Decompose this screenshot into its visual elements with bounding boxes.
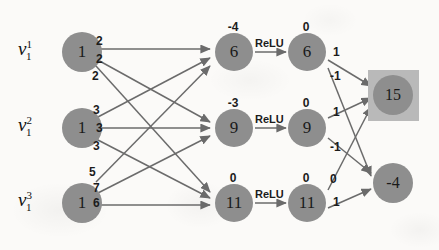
bias-h2: -3 [218, 96, 248, 110]
hidden-node-2: 9 [215, 109, 253, 147]
edge-v1-h2 [96, 59, 210, 122]
act-bias-h2: 0 [291, 96, 321, 110]
edge-v2-h3 [96, 139, 210, 198]
activated-node-3: 11 [288, 184, 326, 222]
edge-h1-o2 [328, 68, 371, 176]
hidden-node-3-value: 11 [226, 193, 242, 213]
weight-h2-o2: -1 [330, 140, 341, 154]
input-label-1: v11 [18, 38, 31, 62]
weight-v3-h3: 6 [93, 196, 100, 210]
output-node-2: -4 [373, 163, 413, 203]
weight-v3-h1: 5 [89, 165, 96, 179]
relu-label-1: ReLU [255, 37, 284, 49]
act-bias-h3: 0 [291, 171, 321, 185]
bias-h1: -4 [218, 20, 248, 34]
input-node-3-value: 1 [78, 193, 87, 213]
act-bias-h1: 0 [291, 20, 321, 34]
output-node-2-value: -4 [386, 174, 399, 192]
bias-h3: 0 [218, 171, 248, 185]
weight-v2-h1: 3 [93, 103, 100, 117]
activated-node-2: 9 [288, 109, 326, 147]
weight-v3-h2: 7 [93, 181, 100, 195]
activated-node-1: 6 [288, 33, 326, 71]
weight-v1-h1: 2 [96, 34, 103, 48]
weight-v2-h2: 3 [96, 121, 103, 135]
hidden-node-3: 11 [215, 184, 253, 222]
input-node-1-value: 1 [78, 42, 87, 62]
weight-h1-o2: -1 [330, 69, 341, 83]
weight-v1-h3: 2 [92, 69, 99, 83]
relu-label-3: ReLU [255, 188, 284, 200]
activated-node-1-value: 6 [303, 42, 312, 62]
activated-node-2-value: 9 [303, 118, 312, 138]
input-label-2: v21 [18, 114, 31, 138]
weight-h1-o1: 1 [333, 45, 340, 59]
edge-v1-h3 [96, 66, 210, 192]
weight-h3-o2: 1 [333, 195, 340, 209]
hidden-node-1-value: 6 [230, 42, 239, 62]
weight-h2-o1: 1 [333, 105, 340, 119]
input-label-3: v31 [18, 189, 31, 213]
output-node-1-value: 15 [385, 86, 401, 104]
activated-node-3-value: 11 [299, 193, 315, 213]
neural-network-figure: v11 1 v21 1 v31 1 2 2 2 3 3 3 5 7 6 -4 6… [0, 0, 439, 250]
output-node-1: 15 [373, 75, 413, 115]
hidden-node-1: 6 [215, 33, 253, 71]
weight-v2-h3: 3 [93, 139, 100, 153]
relu-label-2: ReLU [255, 113, 284, 125]
weight-h3-o1: 0 [330, 172, 337, 186]
hidden-node-2-value: 9 [230, 118, 239, 138]
input-node-2-value: 1 [78, 118, 87, 138]
edge-v2-h1 [96, 58, 210, 118]
weight-v1-h2: 2 [96, 52, 103, 66]
